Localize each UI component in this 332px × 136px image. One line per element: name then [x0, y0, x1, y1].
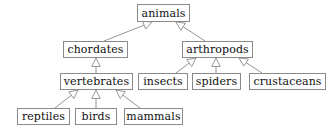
class-node-label: mammals — [126, 111, 180, 122]
generalization-arrowhead-icon — [187, 58, 196, 66]
generalization-edge — [116, 90, 140, 108]
edge-line — [55, 95, 71, 108]
generalization-edge — [92, 90, 100, 108]
edge-line — [123, 95, 140, 108]
class-node-insects[interactable]: insects — [138, 73, 188, 90]
class-node-label: crustaceans — [253, 76, 321, 87]
generalization-arrowhead-icon — [92, 58, 100, 67]
generalization-edge — [92, 58, 100, 73]
class-node-mammals[interactable]: mammals — [124, 108, 183, 125]
generalization-arrowhead-icon — [143, 21, 152, 29]
generalization-edge — [212, 58, 220, 73]
class-node-crustaceans[interactable]: crustaceans — [249, 73, 326, 90]
class-node-label: vertebrates — [64, 76, 129, 87]
generalization-arrowhead-icon — [176, 22, 185, 30]
generalization-arrowhead-icon — [212, 58, 220, 67]
class-node-label: animals — [141, 8, 185, 19]
edge-line — [183, 27, 205, 41]
generalization-arrowhead-icon — [116, 90, 125, 98]
class-node-spiders[interactable]: spiders — [192, 73, 241, 90]
class-node-chordates[interactable]: chordates — [63, 41, 128, 58]
class-node-arthropods[interactable]: arthropods — [182, 41, 253, 58]
generalization-arrowhead-icon — [239, 58, 248, 66]
class-node-animals[interactable]: animals — [137, 4, 190, 22]
class-node-label: insects — [143, 76, 183, 87]
class-node-birds[interactable]: birds — [75, 108, 117, 125]
class-node-vertebrates[interactable]: vertebrates — [60, 73, 133, 90]
class-node-label: spiders — [196, 76, 237, 87]
generalization-edge — [239, 58, 262, 73]
class-node-label: chordates — [67, 44, 123, 55]
class-node-label: reptiles — [22, 111, 65, 122]
generalization-edge — [104, 21, 152, 41]
class-node-label: arthropods — [186, 44, 249, 55]
generalization-arrowhead-icon — [92, 90, 100, 99]
edge-line — [246, 63, 262, 73]
class-node-label: birds — [81, 111, 110, 122]
edge-line — [176, 63, 189, 73]
class-node-reptiles[interactable]: reptiles — [17, 108, 70, 125]
generalization-edge — [55, 90, 78, 108]
generalization-arrowhead-icon — [69, 90, 78, 99]
edge-line — [104, 25, 144, 41]
generalization-edge — [176, 22, 205, 41]
generalization-edge — [176, 58, 196, 73]
inheritance-diagram: animalschordatesarthropodsvertebratesins… — [0, 0, 332, 136]
